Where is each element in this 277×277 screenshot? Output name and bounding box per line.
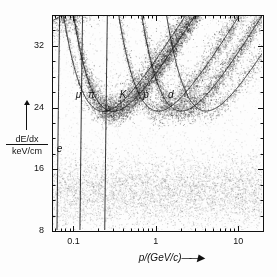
figure-root: 32 24 16 8 0.1 1 10 dE/dx keV/cm p/(GeV/…: [0, 0, 277, 277]
dedx-scatter-plot: [0, 0, 277, 277]
